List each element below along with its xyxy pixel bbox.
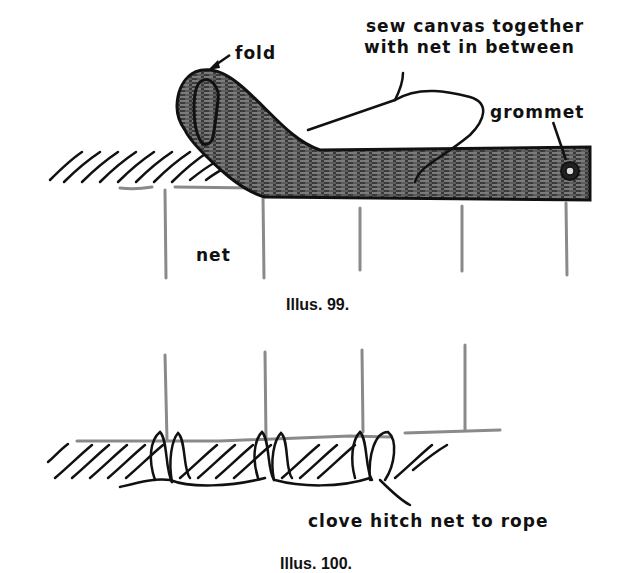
caption-illus-100: Illus. 100.	[280, 555, 352, 573]
fold-label: fold	[235, 44, 276, 62]
sew-label-line2: with net in between	[364, 38, 575, 56]
caption-illus-99: Illus. 99.	[286, 296, 349, 314]
grommet-label: grommet	[490, 103, 584, 121]
grommet-icon	[561, 162, 579, 180]
canvas-strip	[177, 70, 590, 200]
illustration-canvas	[0, 0, 633, 573]
rope-100	[48, 432, 447, 505]
fold-arrow-icon	[208, 55, 230, 70]
net-label: net	[196, 246, 231, 264]
clove-hitch-label: clove hitch net to rope	[308, 512, 548, 530]
net-lines-100	[77, 345, 500, 441]
sew-label-line1: sew canvas together	[366, 17, 584, 35]
rope-99	[50, 152, 226, 182]
